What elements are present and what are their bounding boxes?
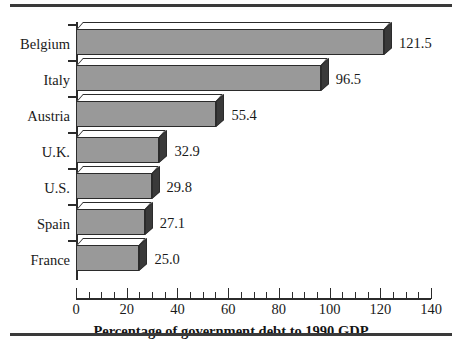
x-axis-minor-tick xyxy=(152,292,153,299)
x-axis-label-20: 20 xyxy=(119,302,134,317)
category-label-uk: U.K. xyxy=(42,145,70,160)
bar-italy[interactable] xyxy=(76,58,329,94)
x-axis-minor-tick xyxy=(89,292,90,299)
bar-front-face xyxy=(76,245,139,271)
bar-side-face xyxy=(145,202,153,235)
bar-side-face xyxy=(139,238,147,271)
x-axis-major-tick xyxy=(127,288,128,299)
x-axis-major-tick xyxy=(431,288,432,299)
x-axis-label-0: 0 xyxy=(72,302,79,317)
category-label-austria: Austria xyxy=(27,109,70,124)
bar-austria[interactable] xyxy=(76,94,224,130)
x-axis-label-140: 140 xyxy=(420,302,442,317)
x-axis-minor-tick xyxy=(355,292,356,299)
x-axis-label-120: 120 xyxy=(369,302,391,317)
bar-chart-plot-area: BelgiumItalyAustriaU.K.U.S.SpainFrance 1… xyxy=(0,12,462,280)
x-axis-minor-tick xyxy=(254,292,255,299)
x-axis-minor-tick xyxy=(393,292,394,299)
x-axis-minor-tick xyxy=(139,292,140,299)
x-axis-minor-tick xyxy=(215,292,216,299)
bar-side-face xyxy=(152,166,160,199)
x-axis-minor-tick xyxy=(406,292,407,299)
x-axis-label-40: 40 xyxy=(170,302,185,317)
bar-belgium[interactable] xyxy=(76,22,392,58)
x-axis-major-tick xyxy=(76,288,77,299)
bar-front-face xyxy=(76,101,216,127)
bar-front-face xyxy=(76,65,321,91)
x-axis-title: Percentage of government debt to 1990 GD… xyxy=(0,323,462,340)
value-label-belgium: 121.5 xyxy=(399,36,432,51)
x-axis-minor-tick xyxy=(203,292,204,299)
x-axis-major-tick xyxy=(228,288,229,299)
x-axis-minor-tick xyxy=(101,292,102,299)
value-label-france: 25.0 xyxy=(154,252,179,267)
category-label-belgium: Belgium xyxy=(20,37,70,52)
x-axis-major-tick xyxy=(330,288,331,299)
x-axis-minor-tick xyxy=(266,292,267,299)
bar-side-face xyxy=(384,22,392,55)
x-axis-label-80: 80 xyxy=(272,302,287,317)
bottom-divider-rule xyxy=(10,333,452,336)
x-axis-minor-tick xyxy=(190,292,191,299)
category-label-italy: Italy xyxy=(43,73,70,88)
bar-front-face xyxy=(76,209,145,235)
x-axis-minor-tick xyxy=(317,292,318,299)
x-axis-minor-tick xyxy=(241,292,242,299)
bar-front-face xyxy=(76,173,152,199)
x-axis-major-tick xyxy=(177,288,178,299)
category-label-france: France xyxy=(31,253,70,268)
x-axis-minor-tick xyxy=(114,292,115,299)
value-label-uk: 32.9 xyxy=(174,144,199,159)
x-axis-major-tick xyxy=(380,288,381,299)
x-axis-major-tick xyxy=(279,288,280,299)
value-label-italy: 96.5 xyxy=(336,72,361,87)
x-axis-minor-tick xyxy=(368,292,369,299)
value-label-us: 29.8 xyxy=(167,180,192,195)
bar-front-face xyxy=(76,29,384,55)
category-label-us: U.S. xyxy=(44,181,70,196)
x-axis-minor-tick xyxy=(304,292,305,299)
x-axis-label-60: 60 xyxy=(221,302,236,317)
bar-france[interactable] xyxy=(76,238,147,274)
bar-front-face xyxy=(76,137,159,163)
bar-uk[interactable] xyxy=(76,130,167,166)
x-axis-label-100: 100 xyxy=(319,302,341,317)
value-label-austria: 55.4 xyxy=(231,108,256,123)
bar-us[interactable] xyxy=(76,166,160,202)
x-axis-minor-tick xyxy=(418,292,419,299)
category-label-spain: Spain xyxy=(37,217,70,232)
bar-side-face xyxy=(321,58,329,91)
value-label-spain: 27.1 xyxy=(160,216,185,231)
top-divider-rule xyxy=(10,4,452,7)
x-axis-minor-tick xyxy=(165,292,166,299)
bar-spain[interactable] xyxy=(76,202,153,238)
bar-side-face xyxy=(216,94,224,127)
bar-side-face xyxy=(159,130,167,163)
x-axis-minor-tick xyxy=(292,292,293,299)
x-axis-minor-tick xyxy=(342,292,343,299)
